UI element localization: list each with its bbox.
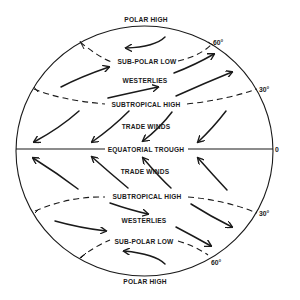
arrow-north-polar-easterly xyxy=(126,37,165,48)
south-subpolar-boundary-right xyxy=(178,241,208,255)
label-south-subpolar-low: SUB-POLAR LOW xyxy=(114,238,174,245)
arrow-north-westerly-4 xyxy=(176,72,232,96)
arrow-north-trade-1 xyxy=(34,111,79,142)
arrow-south-trade-1 xyxy=(33,158,78,189)
arrow-north-westerly-2 xyxy=(108,87,158,98)
latitude-s60: 60° xyxy=(211,259,222,266)
south-subpolar-boundary-left xyxy=(80,240,110,258)
label-north-polar-high: POLAR HIGH xyxy=(124,16,167,23)
arrow-north-westerly-3 xyxy=(174,54,214,73)
arrow-south-westerly-3 xyxy=(191,204,232,227)
south-subtropical-boundary-right xyxy=(188,197,257,213)
label-south-polar-high: POLAR HIGH xyxy=(123,278,166,285)
label-south-trade-winds: TRADE WINDS xyxy=(121,168,170,175)
arrow-south-westerly-1 xyxy=(110,203,148,214)
label-north-subpolar-low: SUB-POLAR LOW xyxy=(117,58,177,65)
arrow-south-westerly-4 xyxy=(176,227,211,246)
south-subtropical-boundary-left xyxy=(35,197,105,211)
arrow-south-polar-easterly xyxy=(124,251,165,264)
circulation-diagram: POLAR HIGH SUB-POLAR LOW WESTERLIES SUBT… xyxy=(0,0,300,300)
label-north-subtropical-high: SUBTROPICAL HIGH xyxy=(111,101,180,108)
latitude-n30: 30° xyxy=(259,86,270,93)
north-subtropical-boundary-left xyxy=(34,89,105,104)
arrow-north-westerly-1 xyxy=(61,67,109,87)
arrow-south-trade-4 xyxy=(198,158,227,190)
latitude-equator: 0 xyxy=(275,146,279,153)
arrow-north-trade-4 xyxy=(198,111,226,142)
label-north-westerlies: WESTERLIES xyxy=(123,77,168,84)
tick-s60-left xyxy=(81,253,86,258)
arrow-south-westerly-2 xyxy=(55,221,106,231)
north-subpolar-boundary-left xyxy=(80,42,112,62)
label-south-subtropical-high: SUBTROPICAL HIGH xyxy=(112,193,181,200)
latitude-n60: 60° xyxy=(213,39,224,46)
label-south-westerlies: WESTERLIES xyxy=(122,217,167,224)
latitude-s30: 30° xyxy=(259,210,270,217)
label-north-trade-winds: TRADE WINDS xyxy=(122,123,171,130)
label-equatorial-trough: EQUATORIAL TROUGH xyxy=(108,146,185,154)
north-subtropical-boundary-right xyxy=(187,89,257,104)
